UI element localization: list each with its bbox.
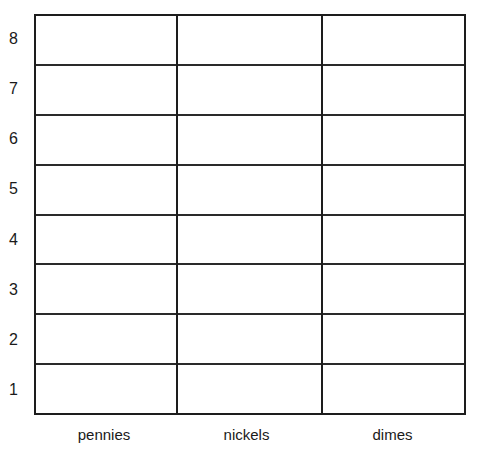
grid-row xyxy=(36,16,464,66)
grid-row xyxy=(36,315,464,365)
y-axis-tick-1: 1 xyxy=(0,365,32,415)
grid-cell[interactable] xyxy=(321,16,464,64)
grid-cell[interactable] xyxy=(36,16,179,64)
coin-tally-worksheet: 8 7 6 5 4 3 2 1 xyxy=(0,0,477,455)
y-axis-tick-6: 6 xyxy=(0,114,32,164)
grid-cell[interactable] xyxy=(36,166,179,214)
grid-row-stack xyxy=(36,16,464,413)
y-axis-tick-4: 4 xyxy=(0,215,32,265)
grid-row xyxy=(36,166,464,216)
grid-cell[interactable] xyxy=(321,166,464,214)
grid-cell[interactable] xyxy=(321,365,464,413)
grid-cell[interactable] xyxy=(179,315,322,363)
grid-cell[interactable] xyxy=(36,365,179,413)
grid-row xyxy=(36,116,464,166)
grid-cell[interactable] xyxy=(36,216,179,264)
x-axis: pennies nickels dimes xyxy=(34,420,466,448)
grid-row xyxy=(36,66,464,116)
grid-cell[interactable] xyxy=(321,66,464,114)
x-axis-label-dimes: dimes xyxy=(319,420,466,448)
grid-cell[interactable] xyxy=(36,265,179,313)
grid-area xyxy=(34,14,466,415)
y-axis-tick-7: 7 xyxy=(0,64,32,114)
x-axis-label-pennies: pennies xyxy=(34,420,174,448)
grid-cell[interactable] xyxy=(179,265,322,313)
x-axis-label-nickels: nickels xyxy=(174,420,319,448)
grid-row xyxy=(36,216,464,266)
y-axis: 8 7 6 5 4 3 2 1 xyxy=(0,14,32,415)
grid-cell[interactable] xyxy=(179,116,322,164)
grid-cell[interactable] xyxy=(36,66,179,114)
grid-cell[interactable] xyxy=(179,365,322,413)
grid-row xyxy=(36,365,464,413)
y-axis-tick-8: 8 xyxy=(0,14,32,64)
grid-cell[interactable] xyxy=(179,16,322,64)
grid-row xyxy=(36,265,464,315)
grid-cell[interactable] xyxy=(36,315,179,363)
grid-cell[interactable] xyxy=(179,166,322,214)
grid-cell[interactable] xyxy=(179,66,322,114)
grid-cell[interactable] xyxy=(321,116,464,164)
grid-cell[interactable] xyxy=(321,216,464,264)
y-axis-tick-2: 2 xyxy=(0,315,32,365)
grid-cell[interactable] xyxy=(321,265,464,313)
grid-cell[interactable] xyxy=(36,116,179,164)
y-axis-tick-5: 5 xyxy=(0,164,32,214)
grid-cell[interactable] xyxy=(321,315,464,363)
y-axis-tick-3: 3 xyxy=(0,265,32,315)
grid-cell[interactable] xyxy=(179,216,322,264)
